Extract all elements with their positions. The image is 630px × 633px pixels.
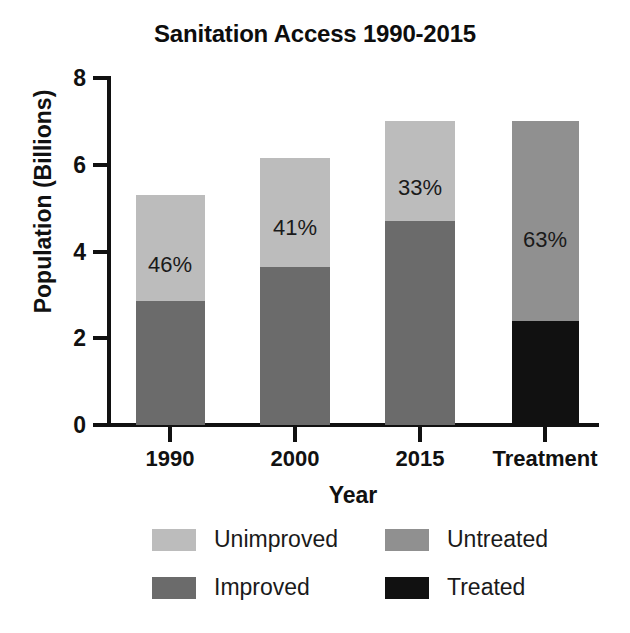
bar-stack[interactable] [385,78,455,425]
legend-swatch [152,577,196,599]
x-axis-tick-label: Treatment [465,446,625,472]
bar-stack[interactable] [136,78,205,425]
x-axis-tick [168,427,172,442]
legend-label: Unimproved [214,526,338,553]
legend-swatch [385,529,429,551]
bar-segment[interactable] [136,301,205,425]
bar-segment[interactable] [260,158,330,266]
plot-area: 46%41%33%63% [107,78,597,425]
y-axis-tick [93,250,108,254]
bar-segment[interactable] [512,121,579,321]
legend-swatch [152,529,196,551]
bar-segment[interactable] [260,267,330,425]
x-axis-tick [418,427,422,442]
bar-segment[interactable] [385,121,455,221]
y-axis-tick [93,423,108,427]
y-axis-tick [93,76,108,80]
y-axis-tick [93,336,108,340]
bar-segment[interactable] [136,195,205,301]
x-axis-tick [543,427,547,442]
bar-segment[interactable] [385,221,455,425]
legend-item[interactable]: Treated [385,574,525,601]
legend-swatch [385,577,429,599]
y-axis-tick-label: 0 [36,412,86,439]
bar-segment[interactable] [512,321,579,425]
bar-stack[interactable] [512,78,579,425]
y-axis-tick [93,163,108,167]
legend-label: Improved [214,574,310,601]
legend-item[interactable]: Untreated [385,526,548,553]
chart-title: Sanitation Access 1990-2015 [0,20,630,48]
chart-figure: Sanitation Access 1990-2015 02468 199020… [0,0,630,633]
legend-label: Untreated [447,526,548,553]
legend-item[interactable]: Unimproved [152,526,338,553]
x-axis-tick [293,427,297,442]
chart-legend: UnimprovedUntreatedImprovedTreated [140,518,600,623]
bar-stack[interactable] [260,78,330,425]
x-axis-title: Year [107,482,599,509]
y-axis-title: Population (Billions) [30,37,57,367]
legend-label: Treated [447,574,525,601]
legend-item[interactable]: Improved [152,574,310,601]
